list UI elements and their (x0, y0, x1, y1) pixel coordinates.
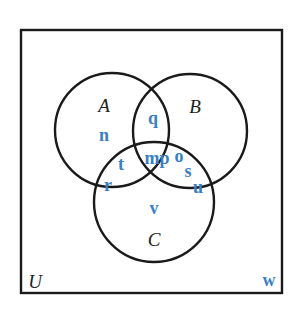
universe-label: U (28, 271, 43, 292)
element-labels: q n mp o s u t r v w (99, 108, 276, 290)
venn-diagram-svg: A B C U q n mp o s u t r v w (0, 0, 299, 312)
element-u: u (193, 177, 203, 197)
element-v: v (150, 198, 159, 218)
set-b-label: B (189, 96, 201, 117)
element-n: n (99, 125, 109, 145)
element-mp: mp (144, 148, 169, 168)
set-a-label: A (96, 95, 110, 116)
element-w: w (263, 270, 276, 290)
element-q: q (148, 108, 158, 128)
set-c-label: C (148, 229, 161, 250)
element-s: s (184, 161, 191, 181)
element-o: o (175, 146, 184, 166)
element-r: r (104, 175, 112, 195)
venn-diagram: A B C U q n mp o s u t r v w (0, 0, 299, 312)
element-t: t (118, 154, 124, 174)
